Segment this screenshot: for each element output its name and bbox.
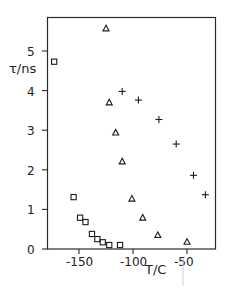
- y-tick-label: 4: [27, 85, 35, 99]
- plus-marker: [155, 116, 162, 123]
- plot-frame: [48, 18, 216, 250]
- square-marker: [71, 195, 76, 200]
- data-markers: [52, 25, 209, 247]
- triangle-marker: [103, 25, 109, 31]
- x-tick-label: -100: [120, 255, 147, 269]
- plus-marker: [202, 191, 209, 198]
- plus-marker: [190, 172, 197, 179]
- triangle-marker: [106, 99, 112, 105]
- square-marker: [89, 231, 94, 236]
- y-axis-label: τ/ns: [9, 61, 36, 76]
- square-marker: [52, 59, 57, 64]
- x-axis-label: T/C: [144, 262, 166, 277]
- x-tick-label: -50: [174, 255, 194, 269]
- y-axis-ticks: 012345: [27, 45, 48, 257]
- triangle-marker: [129, 196, 135, 202]
- y-tick-label: 2: [27, 164, 35, 178]
- y-tick-label: 3: [27, 124, 35, 138]
- triangle-marker: [155, 232, 161, 238]
- square-marker: [100, 240, 105, 245]
- square-marker: [95, 237, 100, 242]
- scatter-chart: -150-100-50 012345 T/C τ/ns: [0, 0, 227, 291]
- y-tick-label: 5: [27, 45, 35, 59]
- plus-marker: [135, 97, 142, 104]
- y-tick-label: 0: [27, 243, 35, 257]
- plus-marker: [173, 141, 180, 148]
- x-tick-label: -150: [66, 255, 93, 269]
- triangle-marker: [140, 215, 146, 221]
- triangle-marker: [184, 239, 190, 245]
- x-axis-ticks: -150-100-50: [66, 249, 194, 269]
- triangle-marker: [119, 158, 125, 164]
- square-marker: [107, 242, 112, 247]
- triangle-marker: [113, 129, 119, 135]
- y-tick-label: 1: [27, 203, 35, 217]
- plus-marker: [119, 88, 126, 95]
- square-marker: [83, 219, 88, 224]
- square-marker: [77, 215, 82, 220]
- square-marker: [117, 242, 122, 247]
